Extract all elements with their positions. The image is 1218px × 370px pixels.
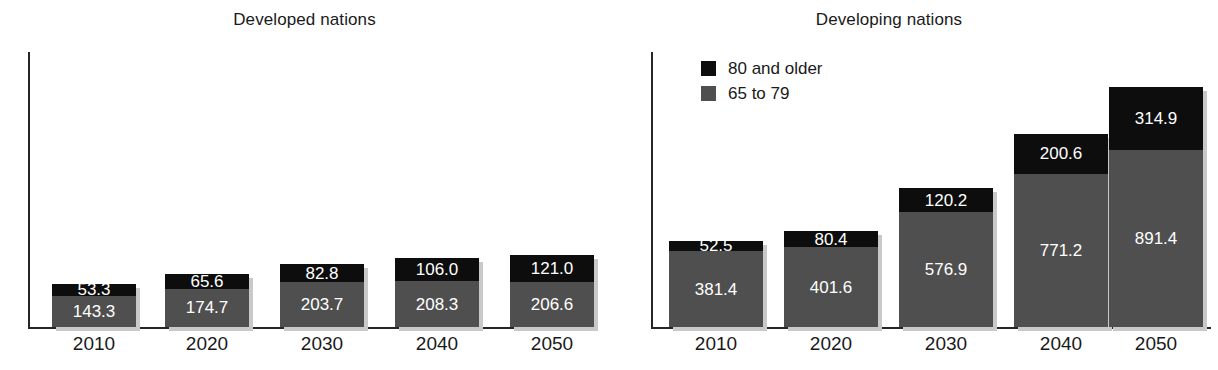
bar-segment-80-and-older-2040: 106.0 [395,258,479,281]
bar-shadow [763,245,767,331]
bar-shadow-bottom [514,327,598,331]
x-tick-label-2010: 2010 [669,333,763,355]
bar-segment-80-and-older-2050: 314.9 [1109,87,1203,150]
panel-developing-nations: Developing nations 80 and older 65 to 79… [609,0,1218,370]
bar-2040: 106.0208.3 [395,258,479,327]
bar-shadow [136,288,140,331]
plot-area-developed: 53.3143.3201065.6174.7202082.8203.720301… [0,0,609,370]
bar-shadow [479,262,483,331]
bar-segment-65-to-79-2020: 174.7 [165,289,249,327]
bar-segment-65-to-79-2030: 203.7 [280,282,364,327]
bar-shadow [993,192,997,331]
bar-2030: 120.2576.9 [899,188,993,327]
bar-2020: 65.6174.7 [165,274,249,327]
bar-2010: 52.5381.4 [669,241,763,327]
bar-segment-80-and-older-2020: 80.4 [784,231,878,247]
x-tick-label-2010: 2010 [52,333,136,355]
bar-shadow-bottom [284,327,368,331]
bar-2050: 314.9891.4 [1109,87,1203,327]
bar-2020: 80.4401.6 [784,231,878,327]
x-tick-label-2020: 2020 [165,333,249,355]
bar-segment-65-to-79-2030: 576.9 [899,212,993,327]
bar-shadow [878,235,882,331]
bar-2030: 82.8203.7 [280,264,364,327]
panel-developed-nations: Developed nations 53.3143.3201065.6174.7… [0,0,609,370]
x-tick-label-2040: 2040 [395,333,479,355]
bar-shadow-bottom [673,327,767,331]
bar-shadow-bottom [788,327,882,331]
bar-shadow-bottom [903,327,997,331]
stacked-bar-chart-figure: Developed nations 53.3143.3201065.6174.7… [0,0,1218,370]
bar-segment-80-and-older-2020: 65.6 [165,274,249,288]
plot-area-developing: 52.5381.4201080.4401.62020120.2576.92030… [609,0,1218,370]
bar-shadow-bottom [1018,327,1112,331]
bar-2010: 53.3143.3 [52,284,136,327]
x-tick-label-2030: 2030 [899,333,993,355]
bar-shadow-bottom [169,327,253,331]
x-tick-label-2040: 2040 [1014,333,1108,355]
bar-segment-80-and-older-2010: 52.5 [669,241,763,251]
bar-shadow-bottom [1113,327,1207,331]
bar-shadow [364,268,368,331]
bar-segment-80-and-older-2010: 53.3 [52,284,136,296]
bar-2050: 121.0206.6 [510,255,594,327]
bar-segment-65-to-79-2040: 208.3 [395,281,479,327]
bar-segment-80-and-older-2030: 120.2 [899,188,993,212]
bar-segment-80-and-older-2040: 200.6 [1014,134,1108,174]
x-tick-label-2030: 2030 [280,333,364,355]
x-tick-label-2020: 2020 [784,333,878,355]
bar-segment-65-to-79-2010: 143.3 [52,296,136,327]
bar-shadow [594,259,598,331]
bar-segment-65-to-79-2050: 891.4 [1109,150,1203,327]
bar-segment-65-to-79-2050: 206.6 [510,282,594,327]
bar-shadow [249,278,253,331]
x-tick-label-2050: 2050 [1109,333,1203,355]
bar-segment-65-to-79-2010: 381.4 [669,251,763,327]
bar-segment-80-and-older-2030: 82.8 [280,264,364,282]
bar-segment-80-and-older-2050: 121.0 [510,255,594,282]
x-tick-label-2050: 2050 [510,333,594,355]
bar-2040: 200.6771.2 [1014,134,1108,327]
bar-shadow [1203,91,1207,331]
bar-segment-65-to-79-2020: 401.6 [784,247,878,327]
bar-shadow-bottom [56,327,140,331]
bar-shadow-bottom [399,327,483,331]
bar-segment-65-to-79-2040: 771.2 [1014,174,1108,327]
